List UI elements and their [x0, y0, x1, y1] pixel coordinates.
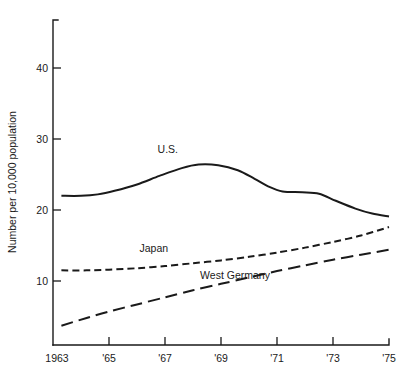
- x-tick-label-1967: '67: [158, 352, 172, 364]
- x-tick-label-1971: '71: [270, 352, 284, 364]
- chart-background: [0, 0, 406, 376]
- series-label-west-germany: West Germany: [200, 269, 271, 281]
- y-tick-label-20: 20: [36, 204, 48, 216]
- x-tick-label-1963: 1963: [45, 352, 69, 364]
- y-tick-label-30: 30: [36, 133, 48, 145]
- x-tick-label-1975: '75: [382, 352, 396, 364]
- x-tick-label-1973: '73: [326, 352, 340, 364]
- line-chart: 40 30 20 10 1963 '65 '67 '69 '71 '73 '75…: [0, 0, 406, 376]
- series-label-japan: Japan: [139, 242, 168, 254]
- series-label-us: U.S.: [158, 143, 178, 155]
- x-tick-label-1965: '65: [102, 352, 116, 364]
- y-axis-title: Number per 10,000 population: [6, 111, 18, 253]
- chart-container: 40 30 20 10 1963 '65 '67 '69 '71 '73 '75…: [0, 0, 406, 376]
- y-tick-label-10: 10: [36, 275, 48, 287]
- y-tick-label-40: 40: [36, 62, 48, 74]
- x-tick-label-1969: '69: [214, 352, 228, 364]
